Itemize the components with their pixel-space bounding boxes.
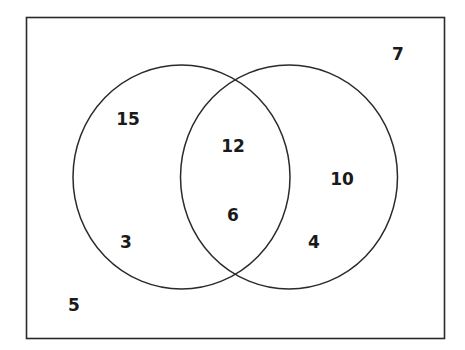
label-intersection-top: 12 <box>221 136 245 156</box>
label-outside-top-right: 7 <box>392 44 404 64</box>
venn-diagram: 7 15 12 10 6 3 4 5 <box>0 0 465 350</box>
label-left-only-bottom: 3 <box>120 232 132 252</box>
universe-rectangle <box>27 18 445 339</box>
label-right-only-top: 10 <box>330 169 354 189</box>
right-circle <box>181 65 398 289</box>
label-right-only-bottom: 4 <box>308 232 320 252</box>
label-left-only-top: 15 <box>116 109 140 129</box>
label-outside-bottom-left: 5 <box>68 295 80 315</box>
label-intersection-bottom: 6 <box>227 205 239 225</box>
left-circle <box>73 65 290 289</box>
